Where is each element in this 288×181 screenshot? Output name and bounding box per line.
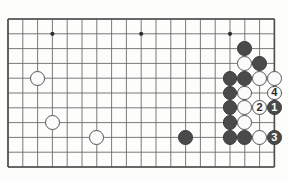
stone-white: [30, 71, 45, 86]
stone-black: [223, 86, 238, 101]
stone-white: [237, 86, 252, 101]
stone-black: [223, 100, 238, 115]
stone-white: [267, 71, 282, 86]
stone-white: [252, 71, 267, 86]
move-number-label: 3: [271, 131, 277, 142]
go-board-diagram: 4213: [0, 0, 288, 181]
stone-white: [237, 115, 252, 130]
move-stone-4: 4: [267, 86, 282, 101]
move-stone-1: 1: [267, 100, 282, 115]
stone-black: [178, 130, 193, 145]
stone-layer: 4213: [0, 0, 288, 181]
move-number-label: 4: [271, 87, 277, 98]
stone-white: [45, 115, 60, 130]
stone-black: [237, 130, 252, 145]
stone-black: [252, 56, 267, 71]
stone-white: [89, 130, 104, 145]
move-stone-2: 2: [252, 100, 267, 115]
stone-white: [237, 56, 252, 71]
stone-black: [223, 115, 238, 130]
stone-black: [223, 71, 238, 86]
move-stone-3: 3: [267, 130, 282, 145]
move-number-label: 2: [257, 102, 263, 113]
stone-black: [223, 130, 238, 145]
stone-black: [237, 71, 252, 86]
stone-white: [252, 130, 267, 145]
stone-white: [237, 100, 252, 115]
stone-black: [237, 41, 252, 56]
move-number-label: 1: [271, 102, 277, 113]
